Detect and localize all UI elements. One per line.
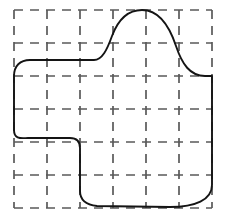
figure-svg [0,0,227,218]
figure-canvas [0,0,227,218]
